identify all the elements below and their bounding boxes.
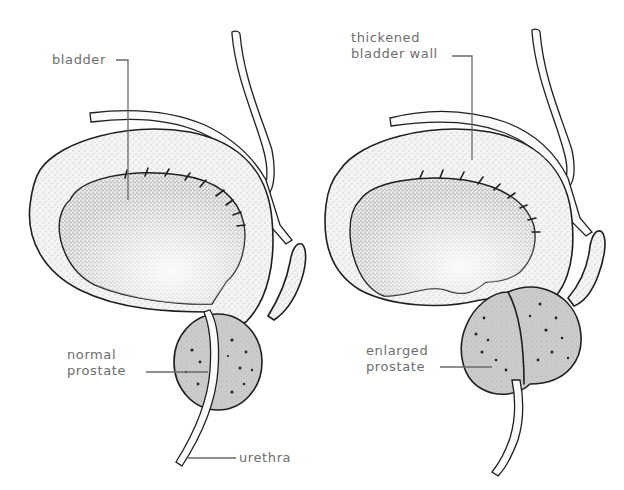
label-normal-prostate-line1: normal (67, 347, 126, 363)
label-enlarged-prostate-line1: enlarged (366, 343, 428, 359)
enlarged-panel (325, 29, 605, 476)
label-enlarged-prostate: enlarged prostate (366, 343, 428, 375)
label-normal-prostate: normal prostate (67, 347, 126, 379)
label-urethra: urethra (239, 450, 291, 466)
label-bladder: bladder (52, 52, 106, 68)
left-seminal-vesicle (268, 244, 306, 320)
label-enlarged-prostate-line2: prostate (366, 359, 428, 375)
label-thickened-bladder-wall: thickened bladder wall (351, 30, 438, 62)
bladder-prostate-diagram (0, 0, 624, 490)
label-wall-line1: thickened (351, 30, 438, 46)
label-wall-line2: bladder wall (351, 46, 438, 62)
normal-panel (29, 31, 305, 466)
label-normal-prostate-line2: prostate (67, 363, 126, 379)
